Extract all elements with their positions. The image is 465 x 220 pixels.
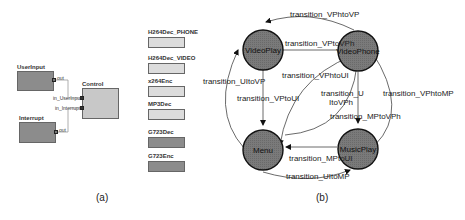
userinput-out-label: out bbox=[57, 75, 64, 81]
transition-uitovph-label-2: ItoVPh bbox=[329, 98, 353, 107]
component-label-h264dec-phone: H264Dec_PHONE bbox=[148, 29, 198, 35]
interrupt-block[interactable] bbox=[19, 122, 56, 143]
state-videoplay[interactable]: VideoPlay bbox=[243, 30, 283, 70]
component-label-g723dec: G723Dec bbox=[148, 129, 174, 135]
component-label-g723enc: G723Enc bbox=[148, 153, 174, 159]
userinput-out-port[interactable] bbox=[52, 78, 56, 82]
state-videoplay-label: VideoPlay bbox=[245, 46, 281, 55]
transition-vphtovp-label: transition_VPhtoVP bbox=[290, 10, 359, 19]
transition-uitovph-label-1: transition_U bbox=[321, 89, 364, 98]
transition-mptovph-label: transition_MPtoVPh bbox=[330, 112, 401, 121]
control-in-interrupt-label: in_Interrupt bbox=[55, 105, 80, 111]
component-g723enc[interactable] bbox=[148, 161, 185, 172]
control-block[interactable] bbox=[82, 88, 119, 119]
component-label-mp3dec: MP3Dec bbox=[148, 101, 171, 107]
transition-uitovp-label: transition_UItoVP bbox=[203, 77, 265, 86]
state-videophone-label: VideoPhone bbox=[336, 47, 380, 56]
panel-b: VideoPlay VideoPhone Menu MusicPlay tran… bbox=[200, 0, 465, 220]
component-h264dec-video[interactable] bbox=[148, 63, 185, 74]
userinput-label: UserInput bbox=[17, 64, 45, 70]
interrupt-label: Interrupt bbox=[19, 115, 44, 121]
state-musicplay-label: MusicPlay bbox=[340, 145, 376, 154]
component-h264dec-phone[interactable] bbox=[148, 37, 185, 48]
control-in-userinput-label: in_UserInput bbox=[53, 95, 81, 101]
state-menu[interactable]: Menu bbox=[243, 130, 283, 170]
transition-vphtomp-label: transition_VPhtoMP bbox=[383, 89, 454, 98]
component-x264enc[interactable] bbox=[148, 86, 185, 97]
control-in-interrupt-port[interactable] bbox=[80, 106, 84, 110]
transition-uitomp-label: transition_UItoMP bbox=[286, 172, 350, 181]
state-musicplay[interactable]: MusicPlay bbox=[338, 129, 378, 169]
transition-vptoui-label: transition_VPtoUI bbox=[237, 94, 299, 103]
component-mp3dec[interactable] bbox=[148, 109, 185, 120]
panel-a: UserInput out Interrupt out Control in_U… bbox=[0, 0, 200, 220]
state-diagram: VideoPlay VideoPhone Menu MusicPlay tran… bbox=[200, 0, 465, 220]
control-label: Control bbox=[82, 81, 103, 87]
interrupt-out-port[interactable] bbox=[54, 130, 58, 134]
transition-vphtoui-label: transition_VPhtoUI bbox=[282, 71, 349, 80]
component-label-h264dec-video: H264Dec_VIDEO bbox=[148, 55, 195, 61]
interrupt-out-label: out bbox=[59, 127, 66, 133]
caption-b: (b) bbox=[316, 192, 328, 203]
userinput-block[interactable] bbox=[17, 71, 54, 91]
caption-a: (a) bbox=[96, 192, 108, 203]
state-menu-label: Menu bbox=[253, 146, 273, 155]
transition-mptoui-label: transition_MPtoUI bbox=[289, 154, 353, 163]
component-g723dec[interactable] bbox=[148, 137, 185, 148]
transition-vptovph-label: transition_VPtoVPh bbox=[285, 39, 354, 48]
component-label-x264enc: x264Enc bbox=[148, 78, 172, 84]
state-videophone[interactable]: VideoPhone bbox=[336, 31, 380, 71]
